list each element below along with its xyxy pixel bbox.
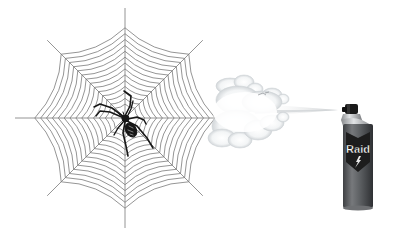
spray-cloud xyxy=(208,75,338,148)
spider xyxy=(94,91,153,156)
brand-label: Raid xyxy=(346,143,370,155)
spray-can: Raid xyxy=(341,104,373,211)
scene-svg: Raid xyxy=(0,0,394,250)
illustration: Raid xyxy=(0,0,394,250)
